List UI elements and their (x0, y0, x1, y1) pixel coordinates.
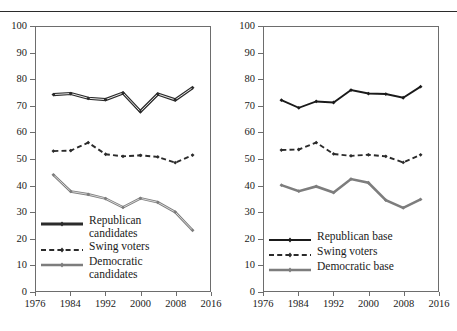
y-tick-label: 20 (245, 234, 256, 244)
x-tick-mark (211, 292, 212, 296)
x-tick-label: 2016 (429, 298, 450, 310)
y-tick-label: 10 (17, 260, 28, 270)
y-tick-label: 40 (17, 181, 28, 191)
x-tick-mark (333, 292, 334, 296)
x-tick-label: 1984 (60, 298, 81, 310)
running-head (0, 0, 457, 11)
legend-item[interactable]: Republicancandidates (40, 214, 205, 239)
x-tick-mark (141, 292, 142, 296)
y-tick-label: 80 (245, 74, 256, 84)
y-tick-label: 30 (245, 207, 256, 217)
legend-item[interactable]: Democraticcandidates (40, 255, 205, 280)
legend-item[interactable]: Swing voters (268, 245, 443, 259)
data-point-marker (52, 149, 56, 153)
series-line-dashed (53, 143, 192, 163)
legend-swatch-icon (40, 242, 84, 254)
legend-item[interactable]: Republican base (268, 230, 443, 244)
x-tick-mark (70, 292, 71, 296)
x-tick-label: 2016 (201, 298, 222, 310)
legend-label: Democraticcandidates (84, 255, 143, 280)
legend-label: Democratic base (312, 260, 394, 273)
x-tick-label: 2000 (130, 298, 151, 310)
y-axis-right: 0102030405060708090100 (228, 26, 263, 292)
data-point-marker (332, 152, 336, 156)
y-tick-label: 20 (17, 234, 28, 244)
legend-swatch-icon (40, 216, 84, 228)
data-point-marker (191, 153, 195, 157)
x-tick-mark (439, 292, 440, 296)
x-tick-mark (105, 292, 106, 296)
y-tick-label: 100 (239, 21, 255, 31)
legend-left: RepublicancandidatesSwing votersDemocrat… (40, 214, 205, 281)
legend-label: Republicancandidates (84, 214, 141, 239)
data-point-marker (104, 152, 108, 156)
x-tick-label: 1976 (253, 298, 274, 310)
y-tick-label: 100 (11, 21, 27, 31)
legend-label: Swing voters (312, 245, 377, 258)
x-tick-mark (369, 292, 370, 296)
legend-right: Republican baseSwing votersDemocratic ba… (268, 230, 443, 275)
y-tick-label: 60 (245, 127, 256, 137)
legend-swatch-icon (268, 232, 312, 244)
top-horizontal-rule (0, 11, 457, 12)
x-tick-mark (298, 292, 299, 296)
chart-panel-left: 0102030405060708090100 19761984199220002… (0, 14, 228, 331)
legend-item[interactable]: Swing voters (40, 240, 205, 254)
legend-label: Republican base (312, 230, 393, 243)
data-point-marker (367, 153, 371, 157)
y-tick-label: 50 (17, 154, 28, 164)
y-tick-label: 90 (17, 48, 28, 58)
figure-page: 0102030405060708090100 19761984199220002… (0, 0, 457, 331)
data-point-marker (349, 154, 353, 158)
x-tick-mark (404, 292, 405, 296)
data-point-marker (156, 155, 160, 159)
x-tick-mark (35, 292, 36, 296)
legend-swatch-icon (268, 247, 312, 259)
x-tick-label: 2008 (165, 298, 186, 310)
x-tick-mark (176, 292, 177, 296)
y-tick-label: 40 (245, 181, 256, 191)
x-tick-label: 1992 (323, 298, 344, 310)
y-tick-label: 0 (22, 287, 27, 297)
chart-panels: 0102030405060708090100 19761984199220002… (0, 14, 457, 331)
data-point-marker (121, 154, 125, 158)
y-tick-label: 70 (17, 101, 28, 111)
x-axis-right: 197619841992200020082016 (263, 292, 439, 322)
y-tick-label: 80 (17, 74, 28, 84)
data-point-marker (139, 153, 143, 157)
x-tick-label: 1976 (25, 298, 46, 310)
y-tick-label: 0 (250, 287, 255, 297)
x-tick-label: 2000 (358, 298, 379, 310)
legend-item[interactable]: Democratic base (268, 260, 443, 274)
data-point-marker (384, 92, 388, 96)
y-tick-label: 50 (245, 154, 256, 164)
x-axis-left: 197619841992200020082016 (35, 292, 211, 322)
chart-panel-right: 0102030405060708090100 19761984199220002… (228, 14, 456, 331)
x-tick-mark (263, 292, 264, 296)
legend-swatch-icon (268, 262, 312, 274)
y-tick-label: 10 (245, 260, 256, 270)
legend-label: Swing voters (84, 240, 149, 253)
series-line-dashed (281, 143, 420, 163)
series-line (281, 179, 420, 208)
x-tick-label: 1984 (288, 298, 309, 310)
data-point-marker (419, 153, 423, 157)
x-tick-label: 1992 (95, 298, 116, 310)
y-tick-label: 70 (245, 101, 256, 111)
y-tick-label: 60 (17, 127, 28, 137)
data-point-marker (280, 148, 284, 152)
data-point-marker (384, 154, 388, 158)
y-axis-left: 0102030405060708090100 (0, 26, 35, 292)
x-tick-label: 2008 (393, 298, 414, 310)
data-point-marker (367, 92, 371, 96)
legend-swatch-icon (40, 257, 84, 269)
y-tick-label: 30 (17, 207, 28, 217)
y-tick-label: 90 (245, 48, 256, 58)
